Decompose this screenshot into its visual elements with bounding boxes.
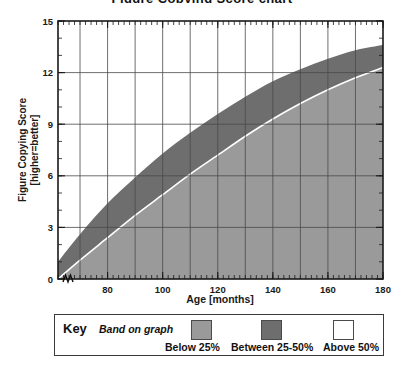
legend-band-on-graph-label: Band on graph (99, 323, 173, 335)
x-tick-label: 140 (265, 284, 281, 295)
chart-plot-area: 80100120140160180 03691215 Age [months] … (0, 0, 404, 310)
legend-label-between-25-50: Between 25-50% (231, 341, 313, 353)
legend-swatch-above-50 (333, 320, 354, 340)
legend-label-below-25: Below 25% (165, 341, 220, 353)
cut-off-title: Figure Copying Score chart (0, 0, 404, 3)
y-tick-label: 0 (48, 274, 53, 285)
y-tick-label: 3 (48, 222, 53, 233)
y-axis-label-line2: [higher=better] (29, 115, 40, 186)
y-axis-tick-labels: 03691215 (42, 16, 53, 285)
y-axis-label-line1: Figure Copying Score (17, 98, 28, 202)
legend-key-title: Key (63, 321, 87, 336)
y-tick-label: 12 (42, 67, 53, 78)
x-axis-label: Age [months] (186, 293, 254, 305)
y-tick-label: 9 (48, 119, 53, 130)
x-tick-label: 160 (320, 284, 336, 295)
y-tick-label: 6 (48, 170, 53, 181)
y-tick-label: 15 (42, 16, 53, 27)
figure-copying-score-chart: Figure Copying Score chart 8010012014016… (0, 0, 404, 368)
x-tick-label: 80 (102, 284, 113, 295)
legend-swatch-between-25-50 (261, 320, 282, 340)
legend-key-box: Key Band on graph Below 25% Between 25-5… (54, 314, 384, 356)
x-tick-label: 180 (375, 284, 391, 295)
legend-swatch-below-25 (191, 320, 212, 340)
legend-label-above-50: Above 50% (323, 341, 379, 353)
x-tick-label: 100 (155, 284, 171, 295)
